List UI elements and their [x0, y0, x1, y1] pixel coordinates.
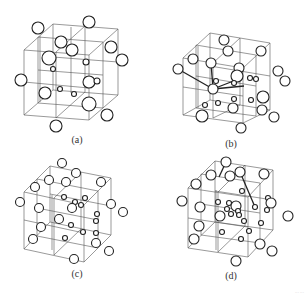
panel-b: (b) — [154, 0, 308, 148]
panel-d: (d) — [154, 150, 308, 297]
panel-a: (a) — [0, 0, 154, 148]
atoms — [173, 35, 290, 133]
atoms — [177, 157, 293, 266]
cube-wireframe — [24, 24, 118, 120]
panel-label-d: (d) — [154, 270, 308, 281]
panel-c: (c) — [0, 150, 154, 297]
panel-label-c: (c) — [0, 268, 154, 279]
lattice-diagram-b — [154, 0, 308, 148]
panel-label-a: (a) — [0, 134, 154, 145]
lattice-diagram-a — [0, 0, 154, 148]
figure-footer-text: ··· ··· — [295, 290, 304, 295]
panel-label-b: (b) — [154, 138, 308, 149]
atoms — [15, 16, 128, 132]
